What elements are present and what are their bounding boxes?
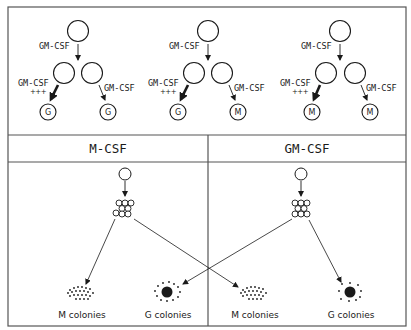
lineage-panel-3: GM-CSF GM-CSF +++ GM-CSF M M <box>280 21 397 121</box>
progenitor-cell-icon <box>68 21 89 42</box>
progenitor-cell-icon <box>295 168 307 180</box>
strength-indicator: +++ <box>292 88 309 96</box>
m-colony-icon <box>240 286 267 300</box>
diagram-canvas: GM-CSF GM-CSF +++ GM-CSF G G GM-CSF GM-C… <box>0 0 411 330</box>
m-colony-icon <box>67 286 94 300</box>
daughter-cell-icon <box>316 63 337 84</box>
cell-cluster-icon <box>113 200 134 217</box>
gm-csf-header: GM-CSF <box>284 141 329 156</box>
daughter-cell-icon <box>184 63 205 84</box>
frame <box>8 7 406 326</box>
daughter-cell-icon <box>345 63 366 84</box>
progenitor-cell-icon <box>198 21 219 42</box>
cell-cluster-icon <box>292 200 310 217</box>
strength-indicator: +++ <box>160 88 177 96</box>
left-factor-label: GM-CSF <box>18 78 49 88</box>
lineage-panel-1: GM-CSF GM-CSF +++ GM-CSF G G <box>18 21 135 121</box>
daughter-cell-icon <box>82 63 103 84</box>
top-factor-label: GM-CSF <box>169 41 200 51</box>
outcome-label: M <box>235 108 242 117</box>
strength-indicator: +++ <box>30 88 47 96</box>
outcome-label: G <box>45 108 51 117</box>
g-colony-icon <box>154 281 181 302</box>
outcome-label: M <box>309 108 316 117</box>
g-colony-icon <box>338 282 362 302</box>
top-factor-label: GM-CSF <box>39 41 70 51</box>
m-csf-header: M-CSF <box>89 141 127 156</box>
m-csf-lineage <box>86 168 238 287</box>
outcome-label: M <box>367 108 374 117</box>
lineage-panel-2: GM-CSF GM-CSF +++ GM-CSF G M <box>148 21 265 121</box>
top-factor-label: GM-CSF <box>301 41 332 51</box>
colony-label: M colonies <box>58 310 106 320</box>
outcome-label: G <box>175 108 181 117</box>
colony-label: G colonies <box>145 310 192 320</box>
progenitor-cell-icon <box>119 168 131 180</box>
right-factor-label: GM-CSF <box>234 83 265 93</box>
colony-label: G colonies <box>328 310 375 320</box>
progenitor-cell-icon <box>330 21 351 42</box>
left-factor-label: GM-CSF <box>280 78 311 88</box>
right-factor-label: GM-CSF <box>104 83 135 93</box>
colony-label: M colonies <box>231 310 279 320</box>
daughter-cell-icon <box>54 63 75 84</box>
daughter-cell-icon <box>212 63 233 84</box>
right-factor-label: GM-CSF <box>366 83 397 93</box>
outcome-label: G <box>105 108 111 117</box>
left-factor-label: GM-CSF <box>148 78 179 88</box>
